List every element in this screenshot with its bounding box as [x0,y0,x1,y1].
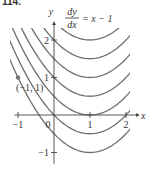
solution-curve [7,0,137,3]
solution-curve [7,53,137,152]
x-axis-label: x [140,110,146,121]
y-tick-label: −1 [38,147,49,158]
initial-point-marker [16,75,20,79]
slope-field-chart: −1012−112xydydx= x − 1(−1, 1) [0,0,152,170]
equation-rhs: = x − 1 [82,13,112,24]
x-axis-arrow-icon [136,113,140,117]
point-label: (−1, 1) [16,82,43,94]
equation-numerator: dy [67,6,77,17]
x-tick-label: 0 [46,119,51,130]
y-tick-label: 2 [44,35,49,46]
x-tick-label: 1 [88,119,93,130]
y-tick-label: 1 [44,72,49,83]
x-tick-label: −1 [13,119,24,130]
equation-denominator: dx [67,19,77,30]
solution-curve [7,16,137,115]
y-axis-label: y [48,6,54,17]
x-tick-label: 2 [124,119,129,130]
axes [14,21,139,164]
y-axis-arrow-icon [52,21,56,25]
